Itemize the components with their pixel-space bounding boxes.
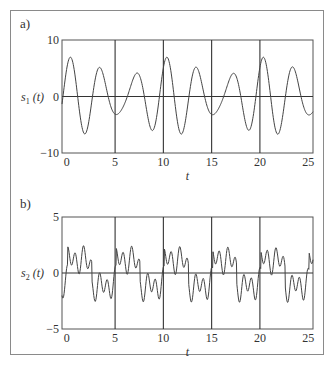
x-tick-label: 5 [112, 331, 118, 345]
x-tick-label: 25 [302, 331, 314, 345]
y-tick-label: −5 [46, 322, 59, 336]
x-tick-label: 15 [206, 331, 218, 345]
x-axis-label: t [186, 345, 190, 359]
y-axis-label: s2 (t) [21, 266, 44, 282]
series-line-b [62, 246, 313, 303]
x-tick-label: 20 [254, 331, 266, 345]
y-tick-label: 5 [53, 210, 59, 224]
x-tick-label: 10 [157, 331, 169, 345]
y-tick-label: 0 [53, 266, 59, 280]
chart-panel-b: 0510152025−505ts2 (t) [0, 0, 334, 368]
x-tick-label: 0 [64, 331, 70, 345]
